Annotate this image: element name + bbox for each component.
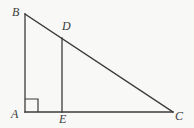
segment-bc bbox=[25, 14, 173, 112]
vertex-label-c: C bbox=[175, 110, 183, 122]
vertex-label-d: D bbox=[62, 20, 71, 32]
right-angle-marker-a bbox=[25, 99, 38, 112]
vertex-label-e: E bbox=[59, 113, 66, 125]
geometry-figure: B D A E C bbox=[0, 0, 194, 128]
vertex-label-b: B bbox=[12, 6, 19, 18]
vertex-label-a: A bbox=[11, 108, 18, 120]
figure-canvas bbox=[0, 0, 194, 128]
